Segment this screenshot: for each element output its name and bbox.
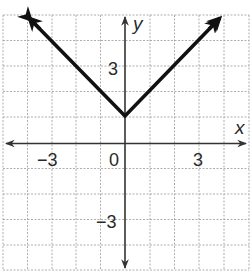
y-tick-neg3: −3 xyxy=(96,212,117,232)
x-axis-label: x xyxy=(234,117,246,138)
x-tick-0: 0 xyxy=(109,150,119,170)
coordinate-plane: y x 3 −3 −3 0 3 xyxy=(0,0,252,278)
grid xyxy=(3,15,249,270)
y-tick-3: 3 xyxy=(108,59,118,79)
x-tick-neg3: −3 xyxy=(37,150,58,170)
y-axis-label: y xyxy=(131,13,144,34)
x-tick-3: 3 xyxy=(193,150,203,170)
